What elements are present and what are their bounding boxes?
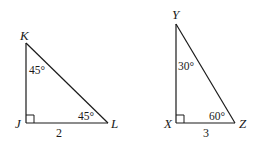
triangle-jkl: K J L 45° 45° 2 [15, 28, 118, 140]
angle-label-z: 60° [209, 110, 226, 122]
side-label-xz: 3 [203, 126, 209, 140]
angle-label-l: 45° [78, 110, 95, 122]
angle-label-k: 45° [29, 64, 46, 76]
vertex-label-j: J [15, 116, 22, 131]
angle-label-y: 30° [178, 60, 195, 72]
triangle-xyz: Y X Z 30° 60° 3 [163, 7, 247, 140]
triangles-diagram: K J L 45° 45° 2 Y X Z 30° 60° 3 [0, 0, 259, 143]
vertex-label-x: X [163, 116, 173, 131]
side-label-jl: 2 [56, 126, 62, 140]
side-yz [176, 24, 235, 123]
vertex-label-z: Z [239, 116, 247, 131]
vertex-label-y: Y [172, 7, 181, 22]
vertex-label-l: L [110, 116, 118, 131]
right-angle-marker-x [176, 115, 184, 123]
vertex-label-k: K [19, 28, 30, 43]
right-angle-marker-j [26, 115, 34, 123]
side-kl [26, 43, 108, 123]
